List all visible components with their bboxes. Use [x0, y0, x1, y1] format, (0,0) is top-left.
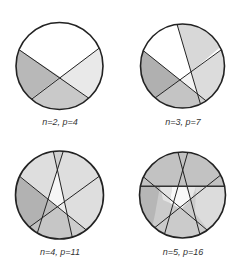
panel-n3-p7 — [120, 0, 240, 133]
panel-label: n=5, p=16 — [133, 247, 233, 257]
panel-label: n=3, p=7 — [133, 117, 233, 127]
panel-label: n=4, p=11 — [10, 247, 110, 257]
circle-division-diagram — [0, 0, 240, 266]
panel-label: n=2, p=4 — [10, 117, 110, 127]
panel-n2-p4 — [0, 0, 120, 133]
